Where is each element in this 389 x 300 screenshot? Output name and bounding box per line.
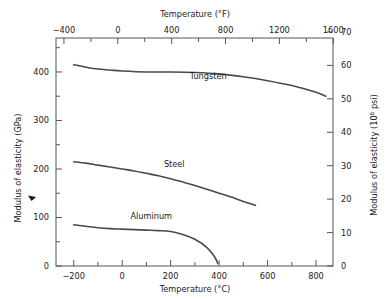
top-axis-ticks bbox=[64, 38, 333, 44]
right-tick-label: 0 bbox=[341, 261, 346, 271]
right-tick-label: 60 bbox=[341, 60, 351, 70]
top-tick-label: 400 bbox=[164, 25, 180, 35]
top-tick-label: 800 bbox=[218, 25, 234, 35]
bottom-axis-title: Temperature (°C) bbox=[159, 284, 231, 294]
top-tick-label: −400 bbox=[53, 25, 76, 35]
pointer-arrow-icon bbox=[28, 196, 36, 201]
data-curves bbox=[74, 65, 326, 264]
bottom-tick-label: 800 bbox=[308, 271, 324, 281]
left-tick-label: 100 bbox=[33, 212, 49, 222]
bottom-tick-label: 600 bbox=[260, 271, 276, 281]
top-tick-label: 0 bbox=[115, 25, 120, 35]
left-tick-label: 0 bbox=[44, 261, 49, 271]
top-tick-label: 1200 bbox=[269, 25, 290, 35]
left-axis-pointer-marker bbox=[28, 196, 36, 201]
top-axis-tick-labels: −400040080012001600 bbox=[53, 25, 344, 35]
left-tick-label: 300 bbox=[33, 115, 49, 125]
right-axis-tick-labels: 010203040506070 bbox=[341, 27, 351, 271]
left-axis-tick-labels: 0100200300400 bbox=[33, 67, 49, 271]
left-tick-label: 200 bbox=[33, 164, 49, 174]
left-axis-title: Modulus of elasticity (GPa) bbox=[13, 113, 23, 222]
bottom-tick-label: 400 bbox=[211, 271, 227, 281]
right-tick-label: 70 bbox=[341, 27, 351, 37]
bottom-tick-label: 200 bbox=[163, 271, 179, 281]
bottom-axis-tick-labels: −2000200400600800 bbox=[62, 271, 323, 281]
chart-figure: −400040080012001600 −2000200400600800 01… bbox=[0, 0, 389, 300]
right-axis-title: Modulus of elasticity (106 psi) bbox=[369, 94, 379, 216]
right-tick-label: 30 bbox=[341, 161, 351, 171]
left-tick-label: 400 bbox=[33, 67, 49, 77]
series-annotations: TungstenSteelAluminum bbox=[130, 71, 226, 221]
right-axis-ticks bbox=[327, 32, 333, 266]
curve-aluminum bbox=[74, 225, 218, 264]
series-label-aluminum: Aluminum bbox=[130, 211, 172, 221]
left-axis-ticks bbox=[56, 48, 62, 266]
bottom-tick-label: 0 bbox=[120, 271, 125, 281]
right-tick-label: 40 bbox=[341, 127, 351, 137]
series-label-tungsten: Tungsten bbox=[189, 71, 227, 81]
series-label-steel: Steel bbox=[164, 159, 185, 169]
bottom-tick-label: −200 bbox=[62, 271, 85, 281]
chart-canvas: −400040080012001600 −2000200400600800 01… bbox=[0, 0, 389, 300]
right-tick-label: 20 bbox=[341, 194, 351, 204]
right-tick-label: 10 bbox=[341, 228, 351, 238]
bottom-axis-ticks bbox=[74, 260, 316, 266]
right-tick-label: 50 bbox=[341, 94, 351, 104]
top-axis-title: Temperature (°F) bbox=[159, 9, 230, 19]
